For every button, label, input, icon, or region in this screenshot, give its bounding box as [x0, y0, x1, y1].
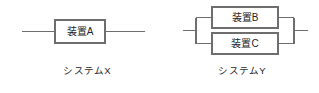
system-x-caption: システムX — [37, 66, 137, 76]
device-a-label: 装置A — [55, 20, 105, 43]
device-c-label: 装置C — [212, 33, 278, 54]
system-y-caption: システムY — [192, 66, 292, 76]
device-b-label: 装置B — [212, 7, 278, 28]
reliability-block-diagram-figure: 装置A 装置B 装置C システムX システムY — [0, 0, 319, 93]
